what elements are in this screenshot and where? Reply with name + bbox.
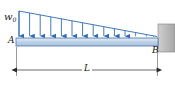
load-intensity-label: w0	[4, 12, 17, 22]
span-length-label: L	[82, 64, 92, 73]
fixed-wall-support	[158, 24, 175, 52]
load-intensity-subscript: 0	[13, 16, 17, 23]
triangular-load-outline	[19, 11, 157, 37]
point-b-label: B	[152, 46, 159, 55]
diagram-canvas	[0, 0, 175, 87]
point-a-label: A	[8, 36, 15, 45]
horizontal-beam	[16, 38, 158, 46]
beam-load-diagram: w0 A B L	[0, 0, 175, 87]
load-intensity-symbol: w	[4, 11, 13, 22]
